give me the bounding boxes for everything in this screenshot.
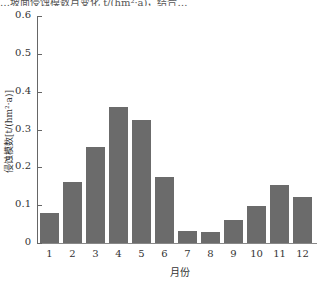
cropped-caption-text: …坡面侵蚀模数月变化 t/(hm²·a)，结合… [0, 0, 322, 6]
y-tick-label: 0.6 [0, 9, 31, 20]
bar-month-8 [201, 232, 220, 243]
y-tick-label: 0.5 [0, 47, 31, 58]
y-tick [37, 130, 42, 131]
bar-month-9 [224, 220, 243, 243]
x-tick-label: 4 [109, 248, 129, 259]
x-tick-label: 5 [132, 248, 152, 259]
bar-month-1 [40, 213, 59, 243]
bar-month-4 [109, 107, 128, 243]
y-tick-label: 0.3 [0, 123, 31, 134]
y-tick [37, 92, 42, 93]
x-tick-label: 3 [86, 248, 106, 259]
bar-month-7 [178, 231, 197, 243]
y-tick [37, 205, 42, 206]
bar-month-12 [293, 197, 312, 243]
y-tick [37, 54, 42, 55]
x-tick-label: 6 [155, 248, 175, 259]
bar-month-5 [132, 120, 151, 243]
y-tick [37, 167, 42, 168]
x-axis [37, 243, 317, 244]
bar-month-3 [86, 147, 105, 243]
bar-month-6 [155, 177, 174, 243]
x-tick-label: 10 [247, 248, 267, 259]
y-tick-label: 0.2 [0, 160, 31, 171]
x-tick-label: 1 [40, 248, 60, 259]
x-tick-label: 2 [63, 248, 83, 259]
bar-month-11 [270, 185, 289, 243]
x-tick-label: 8 [201, 248, 221, 259]
bar-month-2 [63, 182, 82, 243]
y-tick [37, 16, 42, 17]
x-tick-label: 7 [178, 248, 198, 259]
bar-month-10 [247, 206, 266, 243]
y-tick-label: 0.4 [0, 85, 31, 96]
y-tick-label: 0 [0, 236, 31, 247]
x-axis-title: 月份 [160, 264, 200, 279]
x-tick-label: 9 [224, 248, 244, 259]
y-tick-label: 0.1 [0, 198, 31, 209]
x-tick-label: 11 [270, 248, 290, 259]
y-tick [37, 243, 42, 244]
x-tick-label: 12 [293, 248, 313, 259]
